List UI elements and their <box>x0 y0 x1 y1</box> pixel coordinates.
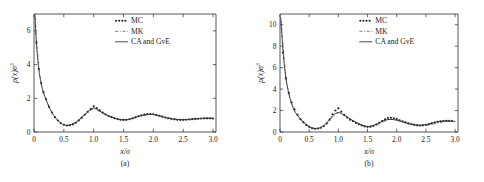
x-tick-label: 1.5 <box>363 135 373 144</box>
y-tick-label: 2 <box>27 94 31 103</box>
legend-label-mk: MK <box>131 27 144 36</box>
legend-label-mk: MK <box>375 27 388 36</box>
y-tick-label: 4 <box>273 85 277 94</box>
panel-caption: (b) <box>365 159 374 168</box>
y-tick-label: 4 <box>27 60 31 69</box>
legend-label-ca-gve: CA and GvE <box>131 37 170 46</box>
data-point <box>340 111 342 113</box>
x-tick-label: 1.0 <box>334 135 344 144</box>
x-tick-label: 3.0 <box>208 135 218 144</box>
x-tick-label: 0.5 <box>305 135 315 144</box>
x-tick-label: 2.5 <box>179 135 189 144</box>
legend-marker-mc <box>115 20 117 22</box>
y-tick-label: 6 <box>27 26 31 35</box>
panel-caption: (a) <box>121 159 130 168</box>
figure-container: 00.51.01.52.02.53.00246ρ(x)σ3x/σ(a)MCMKC… <box>0 0 484 182</box>
x-axis-label: x/σ <box>119 147 131 156</box>
x-tick-label: 0 <box>278 135 282 144</box>
legend-marker-mc <box>124 20 126 22</box>
plot-area-a: 00.51.01.52.02.53.00246ρ(x)σ3x/σ(a)MCMKC… <box>0 0 242 182</box>
series-line-ca-gve <box>281 17 455 128</box>
y-tick-label: 8 <box>273 42 277 51</box>
plot-svg-a: 00.51.01.52.02.53.00246ρ(x)σ3x/σ(a)MCMKC… <box>0 0 242 182</box>
x-tick-label: 1.0 <box>89 135 99 144</box>
x-tick-label: 1.5 <box>119 135 129 144</box>
data-point <box>387 117 389 119</box>
series-line-mk <box>35 17 213 125</box>
data-point <box>337 107 339 109</box>
x-tick-label: 0.5 <box>59 135 69 144</box>
legend-label-mc: MC <box>131 16 143 25</box>
legend-marker-mc <box>365 20 367 22</box>
legend-label-mc: MC <box>375 16 387 25</box>
legend-marker-mc <box>369 20 371 22</box>
y-tick-label: 0 <box>273 128 277 137</box>
x-axis-label: x/σ <box>363 147 375 156</box>
y-axis-label: ρ(x)σ3 <box>9 63 19 84</box>
x-tick-label: 2.5 <box>421 135 431 144</box>
y-tick-label: 6 <box>273 63 277 72</box>
legend-label-ca-gve: CA and GvE <box>375 37 414 46</box>
chart-panel-b: 00.51.01.52.02.53.00246810ρ(x)σ3x/σ(b)MC… <box>242 0 484 182</box>
data-point <box>393 117 395 119</box>
x-tick-label: 0 <box>32 135 36 144</box>
legend-marker-mc <box>118 20 120 22</box>
legend-marker-mc <box>121 20 123 22</box>
y-tick-label: 10 <box>269 20 277 29</box>
data-point <box>334 110 336 112</box>
legend-marker-mc <box>359 20 361 22</box>
x-tick-label: 3.0 <box>450 135 460 144</box>
plot-area-b: 00.51.01.52.02.53.00246810ρ(x)σ3x/σ(b)MC… <box>242 0 484 182</box>
y-tick-label: 0 <box>27 128 31 137</box>
data-point <box>93 105 95 107</box>
chart-panel-a: 00.51.01.52.02.53.00246ρ(x)σ3x/σ(a)MCMKC… <box>0 0 242 182</box>
data-point <box>390 117 392 119</box>
series-line-mk <box>281 20 455 128</box>
y-axis-label: ρ(x)σ3 <box>255 63 265 84</box>
x-tick-label: 2.0 <box>149 135 159 144</box>
legend-marker-mc <box>362 20 364 22</box>
plot-svg-b: 00.51.01.52.02.53.00246810ρ(x)σ3x/σ(b)MC… <box>242 0 484 182</box>
y-tick-label: 2 <box>273 106 277 115</box>
x-tick-label: 2.0 <box>392 135 402 144</box>
